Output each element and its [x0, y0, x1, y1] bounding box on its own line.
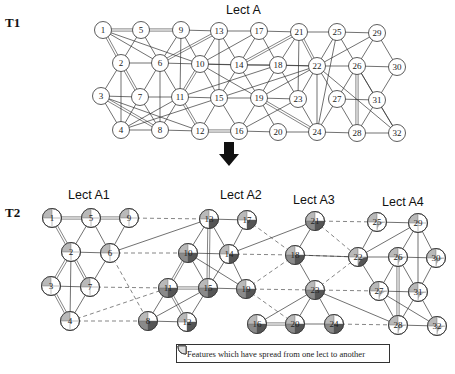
- svg-text:26: 26: [394, 252, 404, 262]
- svg-text:31: 31: [414, 287, 423, 297]
- t2-node-31: 31: [409, 283, 428, 302]
- svg-text:13: 13: [215, 26, 225, 36]
- t1-edges: [100, 29, 397, 133]
- svg-text:17: 17: [255, 26, 265, 36]
- svg-text:29: 29: [373, 28, 383, 38]
- svg-text:11: 11: [176, 92, 185, 102]
- svg-text:2: 2: [69, 247, 74, 257]
- t2-node-10: 10: [179, 244, 198, 263]
- t1-node-19: 19: [251, 90, 268, 107]
- t2-node-8: 8: [139, 312, 158, 331]
- t1-node-23: 23: [290, 91, 307, 108]
- t1-node-6: 6: [152, 55, 169, 72]
- t1-node-17: 17: [251, 23, 268, 40]
- svg-text:24: 24: [313, 127, 323, 137]
- t1-node-3: 3: [93, 88, 110, 105]
- svg-text:3: 3: [49, 281, 54, 291]
- svg-text:4: 4: [68, 316, 73, 326]
- svg-text:8: 8: [158, 125, 163, 135]
- legend: Features which have spread from one lect…: [176, 344, 390, 363]
- svg-text:10: 10: [184, 248, 194, 258]
- t2-node-16: 16: [248, 315, 267, 334]
- t2-node-22: 22: [349, 248, 368, 267]
- svg-text:31: 31: [373, 95, 382, 105]
- svg-text:28: 28: [394, 320, 404, 330]
- t2-node-23: 23: [306, 281, 325, 300]
- svg-text:22: 22: [354, 252, 363, 262]
- t1-node-15: 15: [211, 90, 228, 107]
- t2-node-19: 19: [237, 280, 256, 299]
- t2-node-18: 18: [286, 246, 305, 265]
- svg-text:1: 1: [101, 25, 106, 35]
- svg-text:14: 14: [235, 60, 245, 70]
- svg-text:20: 20: [274, 127, 284, 137]
- t2-node-14: 14: [220, 245, 239, 264]
- t2-edges: [50, 217, 437, 326]
- t2-node-26: 26: [389, 248, 408, 267]
- svg-text:25: 25: [333, 27, 343, 37]
- svg-text:21: 21: [295, 27, 304, 37]
- svg-text:7: 7: [88, 282, 93, 292]
- svg-text:14: 14: [225, 249, 235, 259]
- t1-node-16: 16: [231, 123, 248, 140]
- svg-text:6: 6: [158, 58, 163, 68]
- t1-node-22: 22: [309, 58, 326, 75]
- svg-text:10: 10: [196, 59, 206, 69]
- t2-node-13: 13: [200, 210, 219, 229]
- t2-node-27: 27: [370, 282, 389, 301]
- down-arrow-icon: [219, 142, 239, 166]
- t2-node-20: 20: [286, 315, 305, 334]
- svg-text:5: 5: [139, 25, 144, 35]
- svg-text:30: 30: [432, 253, 442, 263]
- t1-node-7: 7: [132, 89, 149, 106]
- network-diagram: 1591317212529261014182226303711151923273…: [0, 0, 455, 374]
- t1-node-12: 12: [192, 123, 209, 140]
- svg-text:3: 3: [99, 91, 104, 101]
- t1-node-30: 30: [389, 59, 406, 76]
- t1-node-21: 21: [291, 24, 308, 41]
- svg-text:23: 23: [311, 285, 321, 295]
- svg-text:6: 6: [108, 248, 113, 258]
- svg-text:16: 16: [235, 126, 245, 136]
- svg-text:15: 15: [204, 283, 214, 293]
- t2-node-30: 30: [427, 249, 446, 268]
- t2-node-24: 24: [325, 315, 344, 334]
- t2-node-32: 32: [428, 317, 447, 336]
- svg-text:23: 23: [294, 94, 304, 104]
- t2-node-15: 15: [199, 279, 218, 298]
- svg-text:18: 18: [274, 60, 284, 70]
- t1-node-27: 27: [329, 91, 346, 108]
- t1-node-25: 25: [329, 24, 346, 41]
- t2-nodes: 1592637413171014111519812211822231620242…: [42, 209, 447, 336]
- legend-swatch-outline-icon: [177, 345, 187, 355]
- t1-node-31: 31: [369, 92, 386, 109]
- t1-node-26: 26: [349, 58, 366, 75]
- t2-node-1: 1: [43, 209, 62, 228]
- svg-text:32: 32: [393, 128, 402, 138]
- svg-text:8: 8: [146, 316, 151, 326]
- t2-node-4: 4: [61, 312, 80, 331]
- t2-node-3: 3: [42, 277, 61, 296]
- svg-text:28: 28: [353, 128, 363, 138]
- t1-node-5: 5: [133, 22, 150, 39]
- t2-node-7: 7: [81, 278, 100, 297]
- svg-text:19: 19: [242, 284, 252, 294]
- svg-text:16: 16: [253, 319, 263, 329]
- svg-text:27: 27: [333, 94, 343, 104]
- svg-text:19: 19: [255, 93, 265, 103]
- t2-node-6: 6: [101, 244, 120, 263]
- t1-node-14: 14: [231, 57, 248, 74]
- t1-node-4: 4: [113, 122, 130, 139]
- svg-text:13: 13: [205, 214, 215, 224]
- svg-text:24: 24: [330, 319, 340, 329]
- svg-text:12: 12: [183, 317, 192, 327]
- t1-node-24: 24: [309, 124, 326, 141]
- svg-text:9: 9: [179, 25, 184, 35]
- t1-node-10: 10: [192, 56, 209, 73]
- t1-node-1: 1: [95, 22, 112, 39]
- svg-text:1: 1: [50, 213, 55, 223]
- t2-node-5: 5: [82, 209, 101, 228]
- t2-node-17: 17: [238, 211, 257, 230]
- t1-node-18: 18: [270, 57, 287, 74]
- t2-node-11: 11: [159, 279, 178, 298]
